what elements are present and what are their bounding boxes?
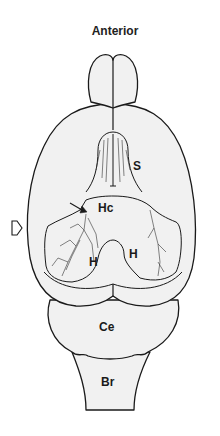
label-septum: S	[133, 160, 141, 172]
brain-diagram: Anterior	[0, 0, 220, 436]
label-brainstem: Br	[101, 376, 114, 388]
label-hippocampus-left: H	[89, 256, 98, 268]
label-hippocampal-commissure: Hc	[98, 202, 113, 214]
side-indicator-arrow-icon	[12, 221, 22, 235]
label-cerebellum: Ce	[99, 321, 114, 333]
diagram-title: Anterior	[0, 24, 220, 38]
label-hippocampus-right: H	[129, 248, 138, 260]
brain-outline-svg	[0, 0, 220, 436]
